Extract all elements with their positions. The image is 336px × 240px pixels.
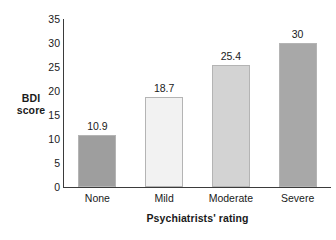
bar-group: 10.9 [78, 19, 116, 187]
bar-value-label: 25.4 [198, 50, 264, 62]
x-axis-tick-labels: NoneMildModerateSevere [64, 192, 331, 208]
x-axis-tick-label: Severe [264, 192, 331, 205]
y-axis-tick-label: 15 [36, 110, 60, 121]
y-axis-tick-label: 0 [36, 182, 60, 193]
plot-area: 10.918.725.430 [64, 19, 331, 187]
y-axis-tick-label: 35 [36, 14, 60, 25]
bar[interactable] [212, 65, 250, 187]
x-axis-tick-label: Moderate [198, 192, 265, 205]
bar[interactable] [78, 135, 116, 187]
x-axis-tick-label: Mild [131, 192, 198, 205]
bar[interactable] [279, 43, 317, 187]
y-axis-tick-label: 30 [36, 38, 60, 49]
y-axis-tick-labels: 35302520151050 [36, 0, 60, 240]
bar-group: 30 [279, 19, 317, 187]
y-axis-tick-label: 10 [36, 134, 60, 145]
bar-value-label: 30 [265, 28, 331, 40]
x-axis-title: Psychiatrists' rating [64, 212, 331, 224]
y-axis-tick-label: 20 [36, 86, 60, 97]
bar-chart: BDI score 35302520151050 10.918.725.430 … [0, 0, 336, 240]
x-axis-line [63, 187, 331, 188]
bar-value-label: 10.9 [64, 120, 130, 132]
x-axis-tick-label: None [64, 192, 131, 205]
bar-group: 18.7 [145, 19, 183, 187]
bar[interactable] [145, 97, 183, 187]
y-axis-tick-label: 25 [36, 62, 60, 73]
bar-group: 25.4 [212, 19, 250, 187]
y-axis-tick-label: 5 [36, 158, 60, 169]
bar-value-label: 18.7 [131, 82, 197, 94]
